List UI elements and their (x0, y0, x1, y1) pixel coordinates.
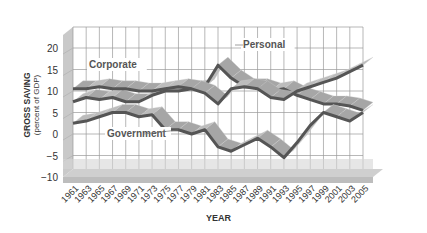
svg-text:Corporate: Corporate (89, 59, 137, 70)
svg-text:5: 5 (52, 108, 58, 119)
svg-text:Government: Government (107, 128, 167, 139)
gross-saving-chart: 20151050−5−10 19611963196519671969197119… (0, 0, 427, 233)
y-axis-subtitle: (percent of GDP) (32, 25, 42, 185)
plot-floor (63, 159, 383, 183)
y-axis-title: GROSS SAVING (22, 25, 32, 185)
x-axis-label: YEAR (206, 213, 231, 223)
svg-text:0: 0 (52, 129, 58, 140)
y-axis-label: GROSS SAVING (percent of GDP) (22, 25, 52, 185)
x-axis-ticks: 1961196319651967196919711973197519771979… (59, 183, 370, 204)
svg-text:Personal: Personal (243, 39, 285, 50)
